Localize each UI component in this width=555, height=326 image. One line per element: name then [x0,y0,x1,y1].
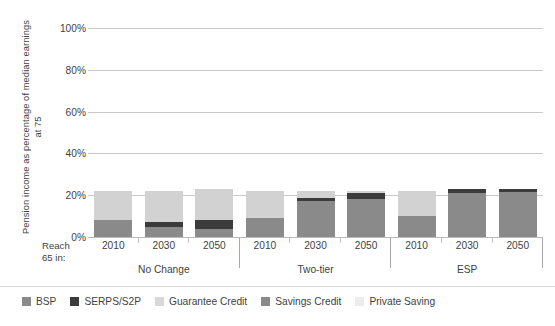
x-axis-corner-label-line1: Reach [42,240,88,252]
bar-slot [290,28,341,237]
y-axis-ticks: 100%80%60%40%20%0% [30,28,86,237]
stacked-bar[interactable] [448,189,486,237]
x-label-group: 201020302050 [391,240,543,251]
group-label: Two-tier [240,264,392,275]
x-tick-label: 2050 [492,240,543,251]
bar-segment-bsp [297,201,335,237]
bar-segment-guarantee-credit [246,191,284,218]
bar-slot [189,28,240,237]
bar-slot [391,28,442,237]
legend-label: Guarantee Credit [169,296,247,307]
stacked-bar[interactable] [297,191,335,237]
bar-slot [492,28,543,237]
bar-segment-bsp [499,192,537,237]
legend-swatch-icon [22,297,31,306]
legend-label: Savings Credit [275,296,341,307]
legend-item[interactable]: Guarantee Credit [155,296,247,307]
legend-label: SERPS/S2P [84,296,141,307]
legend-item[interactable]: Private Saving [355,296,435,307]
bar-slot [139,28,190,237]
x-label-group: 201020302050 [240,240,392,251]
legend-item[interactable]: SERPS/S2P [70,296,141,307]
bar-segment-serps-s2p [195,220,233,228]
y-tick-label: 60% [36,106,86,117]
y-tick-label: 20% [36,190,86,201]
y-tick-label: 80% [36,64,86,75]
x-axis-group-labels: No ChangeTwo-tierESP [88,264,543,275]
x-tick-label: 2030 [139,240,190,251]
legend-swatch-icon [70,297,79,306]
bar-segment-guarantee-credit [297,191,335,198]
bar-segment-bsp [195,229,233,237]
bar-slot [88,28,139,237]
legend-label: Private Saving [369,296,435,307]
x-tick-label: 2010 [240,240,291,251]
bar-slot [442,28,493,237]
x-label-group: 201020302050 [88,240,240,251]
bar-segment-bsp [145,227,183,237]
footer-divider [0,286,555,287]
y-tick-label: 40% [36,148,86,159]
group-label: ESP [391,264,543,275]
x-axis-corner-label: Reach 65 in: [42,240,88,263]
x-tick-label: 2050 [189,240,240,251]
legend-label: BSP [36,296,56,307]
stacked-bar[interactable] [499,189,537,237]
legend-swatch-icon [155,297,164,306]
x-tick-label: 2010 [391,240,442,251]
stacked-bar[interactable] [246,191,284,237]
bar-segment-bsp [246,218,284,237]
bar-segment-bsp [398,216,436,237]
bars-layer [88,28,543,237]
stacked-bar[interactable] [398,191,436,237]
bar-group-two-tier [240,28,392,237]
legend-swatch-icon [261,297,270,306]
stacked-bar-chart: Pension income as percentage of median e… [0,0,555,326]
x-axis-corner-label-line2: 65 in: [42,252,88,264]
group-label: No Change [88,264,240,275]
bar-segment-bsp [448,193,486,237]
chart-legend: BSPSERPS/S2PGuarantee CreditSavings Cred… [22,296,435,307]
stacked-bar[interactable] [145,191,183,237]
bar-segment-bsp [94,220,132,237]
stacked-bar[interactable] [347,191,385,237]
x-tick-label: 2030 [442,240,493,251]
bar-group-esp [391,28,543,237]
legend-item[interactable]: Savings Credit [261,296,341,307]
bar-segment-bsp [347,199,385,237]
bar-slot [240,28,291,237]
x-tick-label: 2010 [88,240,139,251]
bar-group-no-change [88,28,240,237]
y-tick-label: 100% [36,23,86,34]
bar-segment-guarantee-credit [398,191,436,216]
x-axis-year-labels: 201020302050201020302050201020302050 [88,240,543,251]
bar-segment-guarantee-credit [94,191,132,220]
bar-slot [341,28,392,237]
stacked-bar[interactable] [195,189,233,237]
bar-segment-guarantee-credit [195,189,233,220]
x-tick-label: 2050 [341,240,392,251]
x-tick-label: 2030 [290,240,341,251]
stacked-bar[interactable] [94,191,132,237]
legend-item[interactable]: BSP [22,296,56,307]
bar-segment-guarantee-credit [145,191,183,222]
legend-swatch-icon [355,297,364,306]
